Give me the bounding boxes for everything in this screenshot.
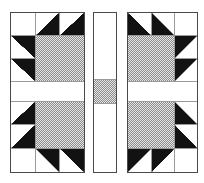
claw-triangle [11,125,35,148]
left-paw-block [10,12,85,173]
claw-triangle [175,36,197,58]
claw-triangle [175,59,197,81]
sashing-band [11,82,84,101]
sashing-band [128,82,197,101]
claw-triangle [128,149,151,172]
corner-square [11,149,35,172]
claw-triangle [11,102,35,125]
corner-square [175,13,197,35]
cornerstone-square [94,80,116,102]
claw-triangle [11,59,35,81]
claw-triangle [152,149,175,172]
corner-square [175,149,197,172]
center-sashing-strip [93,12,117,173]
claw-triangle [152,13,175,35]
right-paw-block [127,12,198,173]
paw-pad [128,36,174,81]
claw-triangle [60,13,84,35]
paw-pad [128,102,174,149]
claw-triangle [175,102,197,125]
claw-triangle [36,13,60,35]
claw-triangle [11,36,35,58]
paw-pad [36,102,84,149]
claw-triangle [60,149,84,172]
sashing-strip [94,104,116,172]
claw-triangle [128,13,151,35]
paw-pad [36,36,84,81]
claw-triangle [175,125,197,148]
sashing-strip [94,13,116,79]
claw-triangle [36,149,60,172]
quilt-pattern-canvas [0,0,204,183]
corner-square [11,13,35,35]
